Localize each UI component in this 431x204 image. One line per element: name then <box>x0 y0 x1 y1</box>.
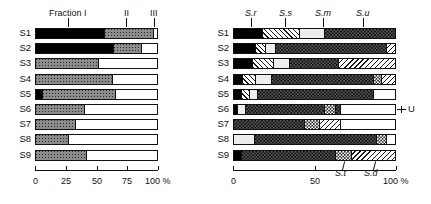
row-label-s9: S9 <box>0 149 31 160</box>
bar-segment <box>386 44 396 53</box>
x-axis-tick-label: 25 <box>61 176 71 186</box>
x-axis-tick-label: 75 <box>122 176 132 186</box>
bar-segment <box>84 105 158 114</box>
bar-row-s6 <box>35 104 158 115</box>
bar-segment <box>42 90 116 99</box>
row-label-s5: S5 <box>0 88 31 99</box>
top-annotation-tick <box>126 18 127 27</box>
bar-segment <box>304 120 320 129</box>
bar-row-s5 <box>35 89 158 100</box>
row-label-s7: S7 <box>0 118 31 129</box>
x-axis-tick-label: 100 % <box>145 176 171 186</box>
bar-segment <box>340 120 396 129</box>
row-label-s2: S2 <box>0 42 31 53</box>
bar-segment <box>234 44 255 53</box>
bar-segment <box>252 59 274 68</box>
row-label-s6: S6 <box>215 103 229 114</box>
x-axis-tick-label: 0 <box>231 176 236 186</box>
bar-segment <box>335 151 352 160</box>
bar-segment <box>319 120 341 129</box>
bar-segment <box>324 29 396 38</box>
top-annotation-ii: II <box>124 8 129 18</box>
row-label-s4: S4 <box>215 73 229 84</box>
bar-row-s9 <box>233 150 396 161</box>
bar-segment <box>351 151 396 160</box>
top-annotation-su: S.u <box>356 8 370 18</box>
bar-row-s1 <box>35 28 158 39</box>
row-label-s3: S3 <box>215 57 229 68</box>
bar-segment <box>275 44 387 53</box>
bar-segment <box>113 44 141 53</box>
bar-row-s6 <box>233 104 396 115</box>
x-axis-tick <box>396 166 397 170</box>
bar-segment <box>36 59 98 68</box>
top-annotation-tick <box>285 18 286 27</box>
bar-segment <box>141 44 158 53</box>
x-axis-tick-label: 50 <box>92 176 102 186</box>
bar-segment <box>386 135 396 144</box>
bar-segment <box>153 29 158 38</box>
bar-segment <box>373 90 396 99</box>
x-axis-tick <box>35 166 36 170</box>
bar-segment <box>75 120 158 129</box>
x-axis-tick <box>233 166 234 170</box>
bottom-annotation-sd: S.d <box>364 168 378 178</box>
bar-segment <box>104 29 154 38</box>
row-label-s7: S7 <box>215 118 229 129</box>
x-axis-line <box>35 170 158 171</box>
bar-segment <box>234 120 304 129</box>
bar-segment <box>381 75 396 84</box>
bar-row-s8 <box>35 134 158 145</box>
bar-segment <box>262 29 300 38</box>
row-label-s1: S1 <box>215 27 229 38</box>
bar-row-s4 <box>233 74 396 85</box>
row-label-s9: S9 <box>215 149 229 160</box>
bar-row-s2 <box>233 43 396 54</box>
bar-segment <box>98 59 159 68</box>
x-axis-tick-label: 50 <box>310 176 320 186</box>
bar-segment <box>340 105 396 114</box>
x-axis-tick <box>97 166 98 170</box>
top-annotation-sm: S.m <box>315 8 331 18</box>
bar-row-s4 <box>35 74 158 85</box>
bar-segment <box>234 135 254 144</box>
bar-row-s7 <box>233 119 396 130</box>
row-label-s1: S1 <box>0 27 31 38</box>
x-axis-tick <box>315 166 316 170</box>
bar-segment <box>255 75 272 84</box>
bar-segment <box>289 59 339 68</box>
top-annotation-tick <box>68 18 69 27</box>
x-axis-tick <box>127 166 128 170</box>
right-chart-panel: S.rS.sS.mS.uS1S2S3S4S5S6US7S8S9050100 %S… <box>215 0 431 204</box>
row-label-s8: S8 <box>0 133 31 144</box>
bar-segment <box>299 29 324 38</box>
top-annotation-tick <box>323 18 324 27</box>
bar-segment <box>338 59 396 68</box>
bar-segment <box>115 90 158 99</box>
bar-segment <box>245 105 324 114</box>
row-label-s3: S3 <box>0 57 31 68</box>
bar-segment <box>234 29 262 38</box>
bar-segment <box>36 29 104 38</box>
bar-row-s2 <box>35 43 158 54</box>
bar-segment <box>241 151 337 160</box>
bar-row-s5 <box>233 89 396 100</box>
bar-segment <box>86 151 158 160</box>
bar-segment <box>273 59 290 68</box>
bar-segment <box>257 90 374 99</box>
x-axis-tick-label: 100 % <box>383 176 409 186</box>
row-label-s8: S8 <box>215 133 229 144</box>
bar-segment <box>36 135 68 144</box>
bar-segment <box>36 44 113 53</box>
left-chart-panel: Fraction IIIIIIS1S2S3S4S5S6S7S8S90255075… <box>0 0 215 204</box>
top-annotation-sr: S.r <box>245 8 257 18</box>
top-annotation-iii: III <box>150 8 158 18</box>
top-annotation-tick <box>251 18 252 27</box>
row-label-s4: S4 <box>0 73 31 84</box>
bar-segment <box>112 75 158 84</box>
bar-segment <box>36 151 86 160</box>
top-annotation-ss: S.s <box>279 8 292 18</box>
bar-segment <box>271 75 373 84</box>
top-annotation-tick <box>154 18 155 27</box>
bar-segment <box>234 59 252 68</box>
